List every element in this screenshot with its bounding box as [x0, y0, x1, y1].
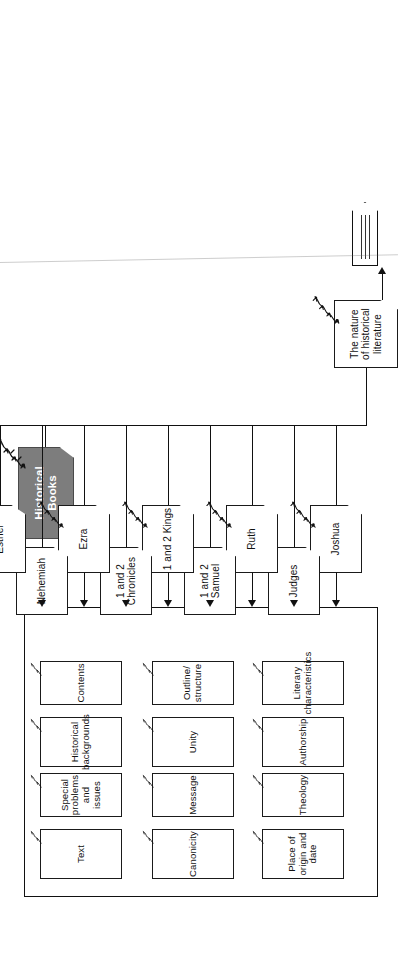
root-connector — [45, 425, 46, 447]
note-node-label: The nature of historical literature — [349, 301, 383, 367]
topic-node-place-of-origin-and-date[interactable]: Place of origin and date — [262, 829, 344, 879]
branch-line-kings — [168, 425, 169, 505]
topic-node-authorship[interactable]: Authorship — [262, 717, 344, 767]
arrow-line-kings — [168, 572, 169, 600]
branch-line-ezra — [84, 425, 85, 505]
topic-node-canonicity[interactable]: Canonicity — [152, 829, 234, 879]
trunk-spine — [68, 425, 366, 426]
arrow-right-icon — [248, 600, 256, 607]
diagram-stage: Historical Books — [0, 0, 398, 957]
arrow-right-icon — [290, 600, 298, 607]
book-node-label: Ezra — [78, 529, 89, 550]
topic-node-label: Authorship — [298, 719, 309, 766]
topic-node-text[interactable]: Text — [40, 829, 122, 879]
topic-node-historical-backgrounds[interactable]: Historical backgrounds — [40, 717, 122, 767]
topic-node-label: Literary characteristics — [292, 652, 313, 715]
topic-node-label: Message — [188, 775, 199, 815]
topic-node-unity[interactable]: Unity — [152, 717, 234, 767]
topic-node-label: Historical backgrounds — [70, 714, 91, 770]
note-branch-line — [366, 368, 367, 426]
pennant-node-111[interactable] — [352, 202, 378, 266]
topic-node-outline-structure[interactable]: Outline/ structure — [152, 661, 234, 705]
topic-node-label: Contents — [76, 663, 87, 702]
branch-line-nehemiah-main — [42, 425, 43, 547]
arrow-right-icon — [206, 600, 214, 607]
arrow-line-joshua — [336, 572, 337, 600]
topic-node-label: Canonicity — [188, 831, 199, 877]
arrow-line-ruth — [252, 572, 253, 600]
pennant-rule — [369, 215, 370, 259]
book-node-label: Ruth — [246, 528, 257, 550]
arrow-right-icon — [164, 600, 172, 607]
arrow-line-ezra — [84, 572, 85, 600]
note-node-nature-of-historical-literature[interactable]: The nature of historical literature — [334, 300, 398, 368]
topic-node-label: Unity — [188, 731, 199, 753]
arrow-right-icon — [80, 600, 88, 607]
book-node-label: Esther — [0, 524, 6, 554]
topic-node-contents[interactable]: Contents — [40, 661, 122, 705]
branch-line-esther — [0, 425, 1, 505]
branch-line-samuel — [210, 425, 211, 547]
book-node-label: Joshua — [330, 523, 341, 556]
topic-node-label: Text — [76, 845, 87, 863]
book-node-esther[interactable]: Esther — [0, 505, 26, 573]
arrow-right-icon — [122, 600, 130, 607]
arrow-right-icon — [38, 600, 46, 607]
pennant-rule — [361, 215, 362, 259]
pennant-feeder-line — [382, 272, 383, 300]
diagram-canvas: Historical Books — [0, 0, 398, 957]
arrow-right-icon — [378, 267, 386, 274]
book-node-label: 1 and 2 Kings — [162, 508, 173, 570]
topic-node-theology[interactable]: Theology — [262, 773, 344, 817]
topic-node-message[interactable]: Message — [152, 773, 234, 817]
topic-node-label: Special problems and issues — [60, 774, 103, 816]
branch-line-ruth — [252, 425, 253, 505]
topic-node-literary-characteristics[interactable]: Literary characteristics — [262, 661, 344, 705]
root-node-label: Historical Books — [33, 448, 59, 538]
topic-node-label: Theology — [298, 775, 309, 815]
branch-line-judges — [294, 425, 295, 547]
branch-riser-esther — [0, 425, 70, 426]
pennant-rule — [365, 215, 366, 259]
book-node-label: Nehemiah — [36, 558, 47, 604]
book-node-label: Judges — [288, 565, 299, 598]
topic-node-label: Place of origin and date — [287, 830, 319, 878]
topic-node-special-problems-and-issues[interactable]: Special problems and issues — [40, 773, 122, 817]
branch-line-joshua — [336, 425, 337, 505]
arrow-right-icon — [332, 600, 340, 607]
branch-line-chronicles — [126, 425, 127, 547]
topic-node-label: Outline/ structure — [182, 662, 203, 704]
